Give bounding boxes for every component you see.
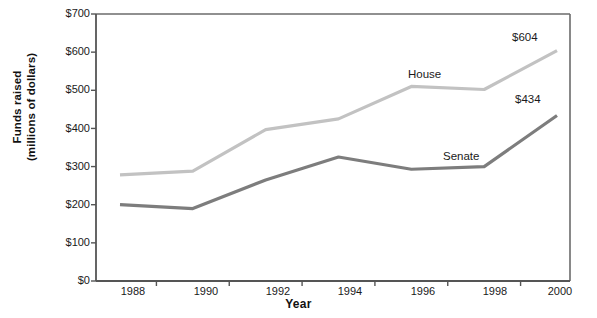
series-line-senate [120,115,557,208]
plot-frame [96,14,570,281]
series-label-house: House [408,68,441,80]
value-label-senate-2000: $434 [515,93,541,105]
value-label-house-2000: $604 [512,31,538,43]
series-label-senate: Senate [443,150,479,162]
line-chart: Funds raised (millions of dollars) $0 $1… [0,0,597,318]
plot-area [0,0,597,318]
